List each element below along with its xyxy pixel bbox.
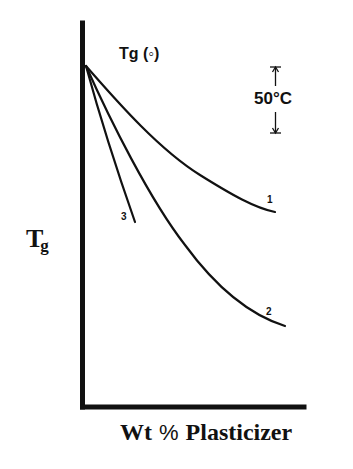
y-axis-label-subscript: g <box>40 236 49 255</box>
curve-1 <box>86 66 275 212</box>
curve-label-2: 2 <box>266 307 272 317</box>
x-axis-label-plasticizer: Plasticizer <box>186 419 293 445</box>
x-axis-label: Wt%Plasticizer <box>120 420 292 444</box>
x-axis-label-wt: Wt <box>120 419 152 445</box>
curve-label-3: 3 <box>121 212 127 222</box>
y-axis-label: Tg <box>26 226 49 254</box>
chart-plot-area <box>0 0 353 469</box>
x-axis-label-percent: % <box>159 420 179 445</box>
origin-annotation: Tg (◦) <box>119 46 159 62</box>
scale-bar-label: 50°C <box>254 90 292 107</box>
curve-3 <box>86 66 135 222</box>
curve-label-1: 1 <box>267 195 273 205</box>
